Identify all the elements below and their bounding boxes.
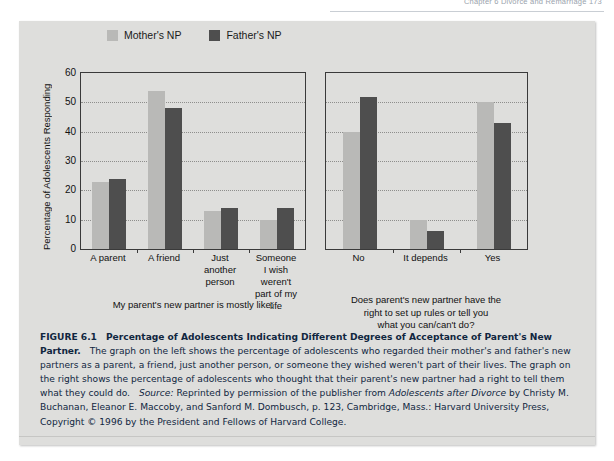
x-label-yes: Yes — [461, 252, 525, 264]
bar-group-yes — [477, 73, 511, 249]
x-label-a-friend-line1: A friend — [136, 252, 192, 264]
bar-group-it-depends — [410, 73, 444, 249]
x-label-just-line1: Just — [192, 252, 248, 264]
y-tick-0: 0 — [56, 243, 76, 254]
bar-mothers-np-it-depends — [410, 220, 427, 249]
left-chart-bars — [81, 73, 305, 249]
left-chart-axis-caption: My parent's new partner is mostly like: — [75, 299, 311, 312]
bar-group-someone-i-wish-werent — [260, 73, 294, 249]
y-axis-ticks: 60 50 40 30 20 10 0 — [55, 72, 79, 248]
x-label-a-parent-line1: A parent — [80, 252, 136, 264]
bar-mothers-np-someone-i-wish-werent — [260, 220, 277, 249]
legend-swatch-mothers-np-icon — [107, 30, 118, 41]
bar-group-no — [343, 73, 377, 249]
y-tick-50: 50 — [56, 96, 76, 107]
legend-swatch-fathers-np-icon — [209, 30, 220, 41]
page-header: Chapter 6 Divorce and Remarriage 173 — [0, 0, 614, 14]
x-label-no: No — [327, 252, 391, 264]
bar-fathers-np-a-friend — [165, 108, 182, 249]
figure-number: FIGURE 6.1 — [40, 332, 97, 342]
bar-mothers-np-no — [343, 132, 360, 249]
x-label-someone-line1: Someone — [248, 252, 304, 264]
y-tick-20: 20 — [56, 184, 76, 195]
right-axis-caption-line2: right to set up rules or tell you — [319, 307, 533, 320]
y-tick-10: 10 — [56, 213, 76, 224]
charts-row: Percentage of Adolescents Responding 60 … — [19, 48, 595, 318]
bar-fathers-np-someone-i-wish-werent — [277, 208, 294, 249]
bar-group-a-friend — [148, 73, 182, 249]
bar-mothers-np-yes — [477, 102, 494, 249]
source-italic-title: Adolescents after Divorce — [389, 388, 506, 398]
bar-group-just-another-person — [204, 73, 238, 249]
y-tick-40: 40 — [56, 125, 76, 136]
bar-fathers-np-no — [360, 97, 377, 250]
x-label-it-depends: It depends — [394, 252, 458, 264]
legend-label-mothers-np: Mother's NP — [124, 29, 181, 41]
y-tick-30: 30 — [56, 155, 76, 166]
y-tick-60: 60 — [56, 67, 76, 78]
x-label-someone-line2: I wish weren't — [248, 264, 304, 288]
figure-caption: FIGURE 6.1Percentage of Adolescents Indi… — [40, 330, 574, 429]
panel-bottom-rule — [19, 436, 595, 437]
x-label-just-line3: person — [192, 276, 248, 288]
bar-fathers-np-just-another-person — [221, 208, 238, 249]
legend-item-fathers-np: Father's NP — [209, 29, 281, 41]
right-chart-bars — [326, 73, 527, 249]
bar-fathers-np-a-parent — [109, 179, 126, 249]
bar-fathers-np-yes — [494, 123, 511, 249]
legend-label-fathers-np: Father's NP — [226, 29, 281, 41]
page-header-text: Chapter 6 Divorce and Remarriage 173 — [464, 0, 602, 6]
y-axis-label: Percentage of Adolescents Responding — [41, 72, 55, 262]
x-label-just-line2: another — [192, 264, 248, 276]
bar-mothers-np-a-friend — [148, 91, 165, 249]
right-chart-axis-caption: Does parent's new partner have the right… — [319, 294, 533, 332]
chart-legend: Mother's NP Father's NP — [107, 29, 282, 41]
page-header-rule — [330, 11, 604, 12]
right-axis-caption-line1: Does parent's new partner have the — [319, 294, 533, 307]
right-chart-x-labels: No It depends Yes — [325, 252, 526, 264]
bar-fathers-np-it-depends — [427, 231, 444, 249]
source-label: Source: — [139, 388, 174, 398]
legend-item-mothers-np: Mother's NP — [107, 29, 181, 41]
bar-mothers-np-just-another-person — [204, 211, 221, 249]
bar-mothers-np-a-parent — [92, 182, 109, 250]
left-chart-plot-area — [80, 72, 306, 250]
source-pre: Reprinted by permission of the publisher… — [176, 388, 385, 398]
right-chart-plot-area — [325, 72, 528, 250]
figure-panel: Mother's NP Father's NP Percentage of Ad… — [19, 21, 595, 445]
bar-group-a-parent — [92, 73, 126, 249]
